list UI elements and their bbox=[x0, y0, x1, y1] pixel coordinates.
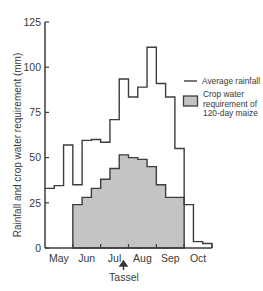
y-tick-label: 50 bbox=[29, 151, 41, 163]
y-tick-label: 0 bbox=[35, 242, 41, 254]
chart-canvas: 0255075100125 MayJunJulAugSepOct Rainfal… bbox=[0, 0, 263, 291]
x-month-label: May bbox=[49, 252, 70, 264]
tassel-label: Tassel bbox=[109, 271, 139, 283]
legend-label-rainfall: Average rainfall bbox=[202, 76, 260, 86]
x-month-label: Sep bbox=[161, 252, 180, 264]
x-month-label: Aug bbox=[133, 252, 152, 264]
chart-legend: Average rainfall Crop water requirement … bbox=[184, 76, 261, 118]
rainfall-crop-water-chart: 0255075100125 MayJunJulAugSepOct Rainfal… bbox=[0, 0, 263, 291]
legend-label-crop-line1: Crop water bbox=[203, 89, 244, 99]
crop-water-requirement-area bbox=[73, 155, 184, 248]
x-month-label: Jul bbox=[108, 252, 121, 264]
x-month-label: Oct bbox=[190, 252, 206, 264]
y-tick-label: 75 bbox=[29, 106, 41, 118]
x-month-label: Jun bbox=[78, 252, 95, 264]
legend-label-crop-line2: requirement of bbox=[203, 99, 258, 109]
legend-fill-swatch bbox=[184, 96, 198, 106]
y-tick-label: 100 bbox=[23, 61, 41, 73]
legend-label-crop-line3: 120-day maize bbox=[203, 108, 258, 118]
crop-water-step-area bbox=[73, 155, 184, 248]
y-tick-label: 25 bbox=[29, 197, 41, 209]
tassel-annotation: Tassel bbox=[109, 261, 139, 283]
y-axis-title: Rainfall and crop water requirement (mm) bbox=[12, 53, 23, 238]
y-tick-label: 125 bbox=[23, 16, 41, 28]
